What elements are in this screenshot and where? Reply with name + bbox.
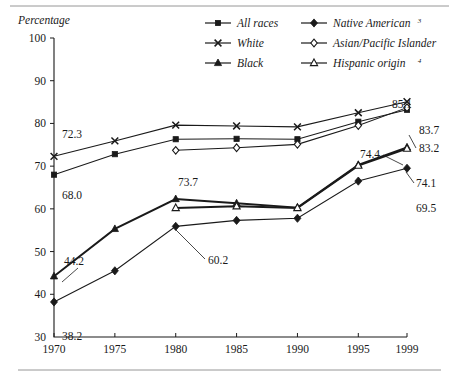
data-point-filled-square-marker (173, 137, 178, 142)
legend-label: Asian/Pacific Islander (332, 37, 437, 50)
legend-label: All races (236, 17, 279, 29)
x-axis-tick-label: 1985 (225, 343, 248, 355)
data-point-x-cross-marker (355, 109, 362, 116)
y-axis-tick-label: 70 (35, 160, 47, 172)
x-axis-tick-label: 1980 (164, 343, 187, 355)
data-point-filled-diamond-marker (51, 298, 58, 306)
data-point-filled-diamond-marker (294, 214, 301, 222)
legend-entry-all-races[interactable]: All races (205, 17, 279, 29)
data-value-label: 72.3 (62, 128, 82, 140)
data-value-label: 85.1 (392, 98, 412, 110)
y-axis-tick-label: 100 (29, 32, 47, 44)
annotation-leader (175, 229, 205, 259)
y-axis-tick-label: 90 (35, 75, 47, 87)
legend-open-triangle-marker (310, 59, 317, 66)
series-line-black (54, 147, 407, 276)
data-value-label: 83.2 (419, 142, 439, 154)
data-point-filled-square-marker (51, 172, 56, 177)
data-value-label: 74.4 (360, 148, 380, 160)
annotation-leader (383, 155, 403, 165)
annotation-leader (409, 135, 416, 148)
y-axis-tick-label: 50 (35, 246, 47, 258)
x-axis-tick-label: 1970 (43, 343, 66, 355)
annotation-leader (62, 268, 78, 282)
data-point-filled-square-marker (112, 152, 117, 157)
legend-footnote-marker: 4 (418, 57, 422, 65)
data-value-label: 74.1 (416, 177, 436, 189)
chart-figure: 3040506070809010019701975198019851990199… (0, 0, 459, 389)
x-axis-tick-label: 1999 (396, 343, 419, 355)
legend-filled-diamond-marker (311, 19, 318, 27)
data-point-filled-diamond-marker (355, 177, 362, 185)
x-axis-tick-label: 1990 (286, 343, 309, 355)
data-value-label: 60.2 (208, 254, 228, 266)
legend-footnote-marker: 3 (417, 17, 422, 25)
legend-open-diamond-marker (311, 39, 317, 47)
line-chart-canvas: 3040506070809010019701975198019851990199… (0, 0, 459, 389)
legend-entry-asian-pacific-islander[interactable]: Asian/Pacific Islander (301, 37, 437, 50)
data-value-label: 38.2 (62, 330, 82, 342)
legend-filled-triangle-marker (214, 59, 221, 66)
series-line-asian-pacific-islander (176, 108, 407, 151)
legend-entry-hispanic-origin[interactable]: Hispanic origin4 (301, 57, 422, 71)
x-axis-tick-label: 1975 (103, 343, 126, 355)
data-point-filled-diamond-marker (111, 267, 118, 275)
data-point-filled-diamond-marker (404, 164, 411, 172)
y-axis-tick-label: 60 (35, 203, 47, 215)
legend-label: White (237, 37, 264, 49)
x-axis-tick-label: 1995 (347, 343, 370, 355)
legend-filled-square-marker (215, 20, 220, 25)
legend-label: Black (237, 57, 264, 69)
y-axis-tick-label: 40 (35, 288, 47, 300)
data-point-x-cross-marker (111, 138, 118, 145)
data-point-filled-diamond-marker (233, 216, 240, 224)
data-point-open-diamond-marker (233, 144, 239, 152)
data-value-label: 73.7 (178, 176, 198, 188)
data-value-label: 44.2 (64, 255, 84, 267)
chart-axes (54, 38, 407, 337)
data-value-label: 83.7 (419, 124, 439, 136)
legend-label: Native American (332, 17, 411, 29)
legend-entry-black[interactable]: Black (205, 57, 264, 69)
annotation-leader (406, 172, 414, 183)
legend-label: Hispanic origin (332, 57, 406, 70)
data-value-label: 68.0 (62, 189, 82, 201)
data-point-filled-square-marker (234, 136, 239, 141)
data-value-label: 69.5 (416, 202, 436, 214)
y-axis-tick-label: 30 (35, 331, 47, 343)
y-axis-tick-label: 80 (35, 117, 47, 129)
legend-entry-native-american[interactable]: Native American3 (301, 17, 422, 30)
legend-entry-white[interactable]: White (205, 37, 264, 49)
data-point-open-diamond-marker (173, 147, 179, 155)
series-line-all-races (54, 110, 407, 175)
y-axis-title: Percentage (17, 14, 70, 27)
